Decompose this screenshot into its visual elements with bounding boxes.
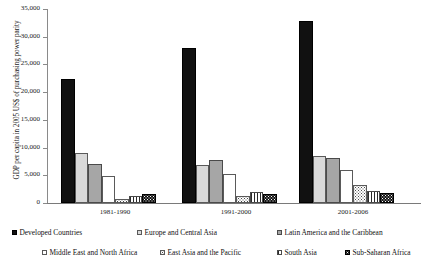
legend-item-label: Latin America and the Caribbean bbox=[285, 228, 383, 237]
chart-legend: Developed CountriesEurope and Central As… bbox=[0, 226, 427, 265]
bar-dev-2001-2006 bbox=[299, 21, 313, 203]
x-axis-label: 2001-2006 bbox=[299, 208, 407, 216]
legend-swatch-icon bbox=[137, 230, 142, 235]
legend-swatch-icon bbox=[277, 250, 282, 255]
y-axis-tick-label: 5,000 bbox=[24, 170, 40, 178]
bar-lac-2001-2006 bbox=[326, 158, 340, 203]
bar-eca-1981-1990 bbox=[75, 153, 89, 203]
legend-item-mena[interactable]: Middle East and North Africa bbox=[42, 248, 137, 257]
bar-sa-1991-2000 bbox=[250, 192, 264, 203]
legend-swatch-icon bbox=[345, 250, 350, 255]
legend-item-sa[interactable]: South Asia bbox=[277, 248, 317, 257]
bar-dev-1991-2000 bbox=[182, 48, 196, 203]
y-axis-tick-label: 15,000 bbox=[21, 115, 40, 123]
y-axis-tick: 35,000 bbox=[43, 9, 47, 10]
legend-item-dev[interactable]: Developed Countries bbox=[12, 228, 82, 237]
y-axis-tick-label: 20,000 bbox=[21, 87, 40, 95]
chart-container: GDP per capita in 2005 US$ of purchasing… bbox=[0, 0, 427, 265]
y-axis-tick-label: 0 bbox=[37, 198, 41, 206]
bar-sa-1981-1990 bbox=[129, 196, 143, 203]
bar-eap-2001-2006 bbox=[353, 185, 367, 203]
legend-swatch-icon bbox=[42, 250, 47, 255]
y-axis-tick: 10,000 bbox=[43, 148, 47, 149]
bar-lac-1991-2000 bbox=[209, 160, 223, 203]
legend-swatch-icon bbox=[160, 250, 165, 255]
y-axis-tick: 25,000 bbox=[43, 64, 47, 65]
bar-sa-2001-2006 bbox=[367, 191, 381, 203]
bar-ssa-1981-1990 bbox=[142, 194, 156, 203]
x-axis-line bbox=[47, 203, 421, 204]
bar-mena-1981-1990 bbox=[102, 176, 116, 203]
legend-swatch-icon bbox=[277, 230, 282, 235]
legend-item-label: South Asia bbox=[285, 248, 317, 257]
bar-ssa-2001-2006 bbox=[380, 193, 394, 203]
legend-item-ssa[interactable]: Sub-Saharan Africa bbox=[345, 248, 411, 257]
legend-item-lac[interactable]: Latin America and the Caribbean bbox=[277, 228, 383, 237]
legend-item-eap[interactable]: East Asia and the Pacific bbox=[160, 248, 241, 257]
bar-eca-1991-2000 bbox=[196, 165, 210, 203]
bar-mena-1991-2000 bbox=[223, 174, 237, 203]
y-axis-tick: 5,000 bbox=[43, 175, 47, 176]
legend-item-label: East Asia and the Pacific bbox=[168, 248, 241, 257]
y-axis-tick-label: 35,000 bbox=[21, 4, 40, 12]
legend-item-label: Developed Countries bbox=[20, 228, 83, 237]
y-axis-tick-label: 10,000 bbox=[21, 143, 40, 151]
plot-area: 35,00030,00025,00020,00015,00010,0005,00… bbox=[47, 9, 421, 204]
bar-mena-2001-2006 bbox=[340, 170, 354, 203]
y-axis-tick: 15,000 bbox=[43, 120, 47, 121]
y-axis-tick: 30,000 bbox=[43, 37, 47, 38]
bar-group: 2001-2006 bbox=[299, 9, 407, 203]
legend-item-label: Europe and Central Asia bbox=[145, 228, 217, 237]
y-axis-tick: 0 bbox=[43, 203, 47, 204]
y-axis-tick-label: 25,000 bbox=[21, 59, 40, 67]
bar-eap-1981-1990 bbox=[115, 199, 129, 203]
bar-group: 1991-2000 bbox=[182, 9, 290, 203]
legend-item-label: Sub-Saharan Africa bbox=[353, 248, 411, 257]
bar-group: 1981-1990 bbox=[61, 9, 169, 203]
x-axis-label: 1991-2000 bbox=[182, 208, 290, 216]
x-axis-label: 1981-1990 bbox=[61, 208, 169, 216]
legend-swatch-icon bbox=[12, 230, 17, 235]
bar-ssa-1991-2000 bbox=[263, 194, 277, 203]
bar-dev-1981-1990 bbox=[61, 79, 75, 203]
y-axis-tick: 20,000 bbox=[43, 92, 47, 93]
bar-eap-1991-2000 bbox=[236, 196, 250, 203]
legend-item-label: Middle East and North Africa bbox=[50, 248, 138, 257]
legend-item-eca[interactable]: Europe and Central Asia bbox=[137, 228, 217, 237]
bar-eca-2001-2006 bbox=[313, 156, 327, 203]
y-axis-line bbox=[47, 9, 48, 204]
y-axis-tick-label: 30,000 bbox=[21, 32, 40, 40]
bar-lac-1981-1990 bbox=[88, 164, 102, 203]
